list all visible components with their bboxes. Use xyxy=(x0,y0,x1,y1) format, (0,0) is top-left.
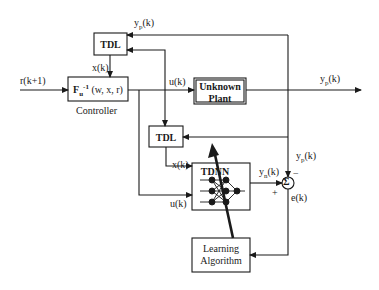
sum-symbol: Σ xyxy=(283,177,290,187)
sum-minus-input-label: yp(k) xyxy=(296,151,316,164)
controller-caption: Controller xyxy=(76,106,117,116)
controller-label: Fu-1 (w, x, r) xyxy=(68,83,128,98)
plant-label-line1: Unknown xyxy=(196,81,244,93)
plant-output-arg: (k) xyxy=(329,73,341,84)
tdl-top-label: TDL xyxy=(94,39,127,51)
sum-minus-sign: − xyxy=(293,169,299,179)
state-bottom-label: x(k) xyxy=(172,160,189,170)
error-signal-label: e(k) xyxy=(291,193,307,203)
control-bottom-label: u(k) xyxy=(170,199,187,209)
plant-label: Unknown Plant xyxy=(196,81,244,104)
learning-label-line1: Learning xyxy=(192,243,250,255)
learning-label-line2: Algorithm xyxy=(192,255,250,267)
tdnn-label: TDNN xyxy=(195,166,235,178)
feedback-top-arg: (k) xyxy=(143,17,155,28)
neural-network-icon xyxy=(200,177,245,205)
nn-output-label: yn(k) xyxy=(259,167,279,180)
feedback-top-label: yp(k) xyxy=(134,18,154,31)
state-top-label: x(k) xyxy=(92,63,109,73)
controller-function-sup: -1 xyxy=(83,83,89,91)
learning-label: Learning Algorithm xyxy=(192,243,250,266)
controller-args: (w, x, r) xyxy=(91,84,123,95)
control-top-label: u(k) xyxy=(169,77,186,87)
sum-plus-sign: + xyxy=(272,188,278,198)
nn-output-arg: (k) xyxy=(268,166,280,177)
controller-function-sub: u xyxy=(79,90,83,98)
plant-output-label: yp(k) xyxy=(320,74,340,87)
sum-minus-arg: (k) xyxy=(305,150,317,161)
diagram-canvas xyxy=(0,0,379,290)
plant-label-line2: Plant xyxy=(196,93,244,105)
tdl-bottom-label: TDL xyxy=(149,132,183,144)
reference-signal-label: r(k+1) xyxy=(20,76,46,86)
